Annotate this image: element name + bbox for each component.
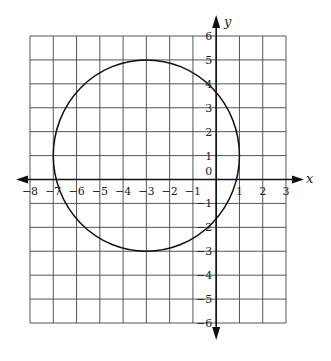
- axes: [16, 15, 304, 340]
- y-tick-label: −6: [196, 317, 212, 330]
- y-axis-label: y: [223, 14, 232, 29]
- x-tick-label: −1: [185, 185, 201, 198]
- y-axis-down-arrow-icon: [212, 327, 220, 340]
- y-tick-label: −4: [196, 269, 212, 282]
- x-tick-label: −7: [45, 185, 61, 198]
- x-tick-label: −5: [92, 185, 108, 198]
- y-tick-label: 1: [205, 150, 212, 163]
- x-tick-label: 1: [236, 185, 243, 198]
- x-tick-label: −8: [22, 185, 38, 198]
- x-tick-label: −4: [115, 185, 131, 198]
- x-tick-label: −2: [162, 185, 178, 198]
- x-tick-label: 3: [283, 185, 290, 198]
- y-tick-label: 3: [205, 102, 212, 115]
- x-axis-label: x: [306, 171, 314, 186]
- y-tick-label: −5: [196, 293, 212, 306]
- y-tick-label: −3: [196, 245, 212, 258]
- y-tick-label: −1: [196, 197, 212, 210]
- y-axis-up-arrow-icon: [212, 15, 220, 28]
- x-axis-right-arrow-icon: [292, 176, 304, 184]
- y-tick-label: 5: [205, 54, 212, 67]
- y-tick-label: 2: [205, 126, 212, 139]
- x-tick-label: −6: [68, 185, 84, 198]
- coordinate-plane: −8−7−6−5−4−3−2−11236543210−1−2−3−4−5−6 x…: [0, 0, 331, 361]
- y-tick-label: 4: [205, 78, 212, 91]
- y-tick-label: −2: [196, 221, 212, 234]
- x-tick-label: 2: [259, 185, 266, 198]
- x-axis-left-arrow-icon: [16, 176, 28, 184]
- y-tick-label: 6: [205, 30, 212, 43]
- y-tick-label: 0: [205, 165, 212, 178]
- x-tick-label: −3: [138, 185, 154, 198]
